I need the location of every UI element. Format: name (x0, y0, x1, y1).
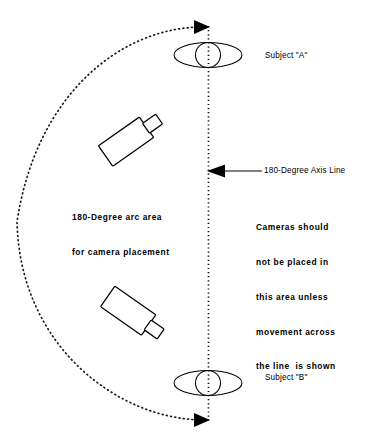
arc-bottom-arrowhead-icon (194, 413, 210, 427)
axis-label-leader (207, 165, 262, 178)
camera-restriction-note-line-4: movement across (256, 327, 336, 339)
axis-label-arrowhead-icon (207, 165, 225, 178)
camera-upper-icon (98, 108, 166, 166)
arc-area-label-line-2: for camera placement (72, 247, 170, 259)
axis-line-label: 180-Degree Axis Line (264, 166, 345, 175)
arc-area-label-line-1: 180-Degree arc area (72, 212, 170, 224)
subject-a-label: Subject "A" (265, 51, 308, 60)
camera-restriction-note-line-1: Cameras should (256, 222, 336, 234)
arc-area-label: 180-Degree arc area for camera placement (72, 189, 170, 282)
arc-top-arrowhead-icon (194, 20, 210, 34)
camera-lower-icon (101, 286, 169, 344)
diagram-canvas: Subject "A" Subject "B" 180-Degree Axis … (0, 0, 368, 439)
camera-restriction-note-line-2: not be placed in (256, 257, 336, 269)
camera-restriction-note-line-3: this area unless (256, 292, 336, 304)
camera-restriction-note: Cameras should not be placed in this are… (256, 199, 336, 396)
camera-restriction-note-line-5: the line is shown (256, 361, 336, 373)
